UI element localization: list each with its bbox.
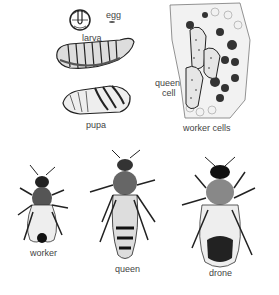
comb-drawing [170, 3, 250, 118]
egg-drawing [109, 21, 115, 23]
label-queen-cell-line2: cell [162, 88, 176, 98]
label-worker-cells: worker cells [183, 123, 231, 133]
pupa-drawing [63, 86, 130, 114]
label-queen: queen [115, 264, 140, 274]
curled-larva-drawing [70, 10, 90, 30]
worker-bee-drawing [18, 165, 68, 243]
drone-bee-drawing [182, 157, 255, 267]
label-drone: drone [209, 268, 232, 278]
label-queen-cell-line1: queen [155, 78, 180, 88]
label-larva: larva [82, 33, 102, 43]
label-worker: worker [30, 248, 57, 258]
label-egg: egg [106, 10, 121, 20]
queen-bee-drawing [90, 150, 155, 259]
label-pupa: pupa [86, 120, 106, 130]
